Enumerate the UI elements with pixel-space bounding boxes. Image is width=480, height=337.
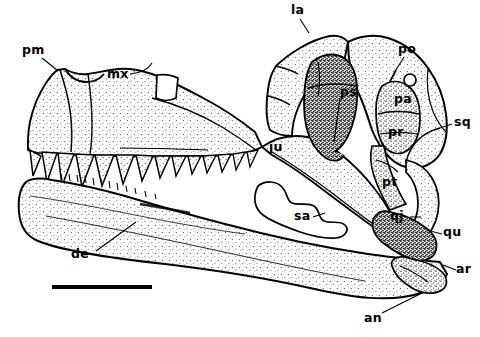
label-de: de [71, 248, 89, 261]
label-pa: pa [394, 93, 412, 106]
label-pm: pm [22, 44, 44, 57]
label-ps: ps [340, 86, 357, 99]
leader-la [300, 19, 309, 33]
label-sa: sa [294, 210, 310, 223]
snout-upper-jaw [28, 69, 262, 157]
skull-figure: pm mx la po ps pa pr sq ju pt qj qu sa a… [0, 0, 480, 337]
label-la: la [291, 4, 304, 17]
label-pt: pt [382, 176, 397, 189]
label-sq: sq [454, 116, 471, 129]
label-qj: qj [390, 210, 404, 223]
label-qu: qu [443, 226, 461, 239]
label-an: an [364, 312, 382, 325]
label-mx: mx [107, 68, 129, 81]
leader-pm [42, 58, 57, 70]
label-po: po [398, 43, 416, 56]
scale-bar [52, 285, 152, 289]
label-pr: pr [388, 126, 404, 139]
label-ar: ar [456, 263, 471, 276]
label-ju: ju [269, 141, 283, 154]
